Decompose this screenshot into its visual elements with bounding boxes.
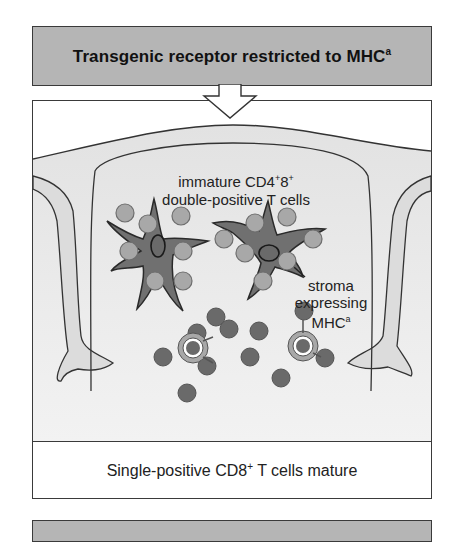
thymus-panel: immature CD4+8+ double-positive T cells …: [32, 100, 432, 499]
panel-divider: [33, 441, 431, 442]
condition-title: Transgenic receptor restricted to MHCa: [73, 46, 391, 67]
down-arrow-icon: [200, 84, 260, 120]
double-positive-label: immature CD4+8+ double-positive T cells: [151, 169, 321, 209]
result-label: Single-positive CD8+ T cells mature: [33, 443, 431, 498]
stroma-label: stroma expressing MHCa: [291, 277, 371, 331]
thymus-illustration: [33, 101, 431, 441]
input-condition-box: Transgenic receptor restricted to MHCa: [32, 26, 432, 86]
next-condition-box: [32, 520, 432, 542]
